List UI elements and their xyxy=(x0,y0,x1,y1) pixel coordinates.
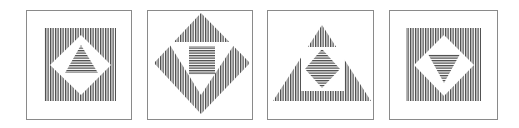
panel-2 xyxy=(148,11,253,120)
figure-stage xyxy=(0,0,519,128)
panel-3 xyxy=(268,11,374,120)
nested-shapes-figure xyxy=(0,0,519,128)
panels-group xyxy=(27,11,498,120)
panel-1 xyxy=(27,11,132,120)
square-horizontal-stripes xyxy=(189,46,215,75)
panel-4 xyxy=(390,11,498,120)
